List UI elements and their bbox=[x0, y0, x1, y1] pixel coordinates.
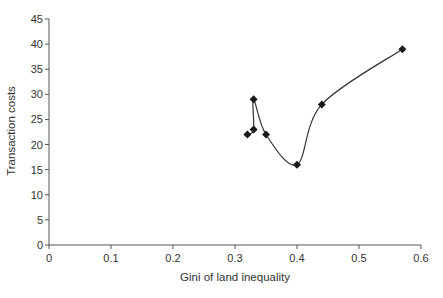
x-tick-label: 0.1 bbox=[103, 252, 118, 264]
diamond-marker-icon bbox=[398, 45, 406, 53]
x-tick-label: 0.5 bbox=[351, 252, 366, 264]
x-tick-label: 0.4 bbox=[289, 252, 304, 264]
plot-area bbox=[243, 45, 406, 169]
series-line bbox=[247, 49, 402, 165]
diamond-marker-icon bbox=[250, 95, 258, 103]
y-axis-title: Transaction costs bbox=[5, 86, 17, 176]
y-tick-label: 10 bbox=[31, 189, 43, 201]
y-tick-label: 15 bbox=[31, 164, 43, 176]
y-tick-label: 25 bbox=[31, 113, 43, 125]
x-tick-label: 0.3 bbox=[227, 252, 242, 264]
y-tick-label: 30 bbox=[31, 88, 43, 100]
x-tick-label: 0.2 bbox=[165, 252, 180, 264]
scatter-line-chart: 05101520253035404500.10.20.30.40.50.6 Gi… bbox=[0, 0, 443, 298]
diamond-marker-icon bbox=[262, 131, 270, 139]
y-tick-label: 45 bbox=[31, 13, 43, 25]
x-tick-label: 0 bbox=[46, 252, 52, 264]
y-tick-label: 5 bbox=[37, 214, 43, 226]
diamond-marker-icon bbox=[243, 131, 251, 139]
y-tick-label: 20 bbox=[31, 139, 43, 151]
y-tick-label: 0 bbox=[37, 239, 43, 251]
y-tick-label: 35 bbox=[31, 63, 43, 75]
y-tick-label: 40 bbox=[31, 38, 43, 50]
diamond-marker-icon bbox=[250, 125, 258, 133]
x-axis-title: Gini of land inequality bbox=[180, 271, 290, 283]
x-tick-label: 0.6 bbox=[413, 252, 428, 264]
axes: 05101520253035404500.10.20.30.40.50.6 bbox=[31, 13, 429, 264]
